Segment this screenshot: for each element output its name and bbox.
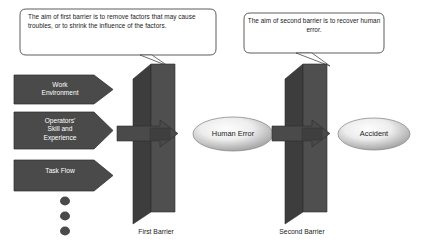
factor-label-operators-skill-and-experience: Operators'Skill andExperience	[22, 117, 98, 142]
first-barrier-shape	[133, 64, 175, 224]
outcome-label-accident: Accident	[340, 129, 408, 138]
second-barrier-callout-text: The aim of second barrier is to recover …	[247, 17, 381, 34]
outcome-label-human-error: Human Error	[196, 129, 270, 138]
second-barrier-shape	[285, 64, 327, 224]
ellipsis-dots	[60, 197, 70, 236]
factor-label-work-environment: WorkEnvironment	[22, 81, 98, 98]
barrier-caption-first: First Barrier	[120, 228, 192, 235]
factor-arrow-task-flow	[14, 160, 113, 191]
diagram-canvas: The aim of first barrier is to remove fa…	[0, 0, 429, 248]
first-barrier-callout-text: The aim of first barrier is to remove fa…	[28, 13, 208, 30]
factor-label-task-flow: Task Flow	[22, 167, 98, 175]
barrier-caption-second: Second Barrier	[262, 228, 342, 235]
